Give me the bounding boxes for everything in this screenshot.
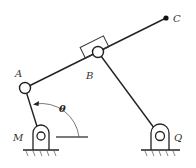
joint-B xyxy=(93,47,104,58)
link-BQ xyxy=(98,52,160,136)
mechanism-diagram: A B C M Q θ xyxy=(0,0,196,168)
theta-arrowhead xyxy=(33,101,39,106)
label-Q: Q xyxy=(174,132,182,143)
joint-A xyxy=(20,83,31,94)
point-C xyxy=(163,15,168,20)
label-theta: θ xyxy=(59,103,66,114)
label-M: M xyxy=(12,132,24,143)
label-B: B xyxy=(85,70,93,81)
support-M xyxy=(23,125,88,156)
label-C: C xyxy=(173,13,181,24)
label-A: A xyxy=(14,68,22,79)
